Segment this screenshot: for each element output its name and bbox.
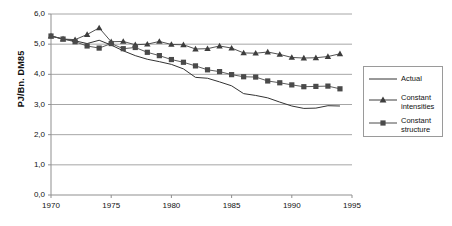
legend-label: Constant intensities bbox=[401, 94, 434, 111]
data-point-marker bbox=[121, 46, 126, 51]
data-point-marker bbox=[48, 33, 53, 38]
data-point-marker bbox=[313, 84, 318, 89]
data-point-marker bbox=[325, 83, 330, 88]
x-tick-label: 1980 bbox=[156, 201, 186, 210]
data-point-marker bbox=[193, 63, 198, 68]
data-point-marker bbox=[157, 53, 162, 58]
x-tick-label: 1995 bbox=[337, 201, 367, 210]
data-point-marker bbox=[145, 50, 150, 55]
data-point-marker bbox=[216, 43, 222, 49]
y-tick-label: 2,0 bbox=[23, 130, 45, 139]
y-tick-label: 0,0 bbox=[23, 190, 45, 199]
data-point-marker bbox=[109, 41, 114, 46]
data-point-marker bbox=[205, 67, 210, 72]
data-point-marker bbox=[156, 38, 162, 44]
legend-item-2[interactable]: Constant structure bbox=[364, 117, 444, 139]
data-point-marker bbox=[84, 31, 90, 37]
series-line-1 bbox=[51, 28, 340, 58]
data-point-marker bbox=[120, 38, 126, 44]
y-tick-label: 1,0 bbox=[23, 160, 45, 169]
legend-label: Actual bbox=[401, 75, 422, 84]
x-tick-label: 1970 bbox=[36, 201, 66, 210]
chart-figure: PJ/Bn. DM85 0,01,02,03,04,05,06,0 197019… bbox=[0, 0, 452, 226]
data-point-marker bbox=[289, 82, 294, 87]
data-point-marker bbox=[169, 57, 174, 62]
data-point-marker bbox=[181, 60, 186, 65]
x-tick-label: 1990 bbox=[277, 201, 307, 210]
data-point-marker bbox=[240, 50, 246, 56]
data-point-marker bbox=[72, 39, 77, 44]
legend-item-0[interactable]: Actual bbox=[364, 73, 444, 95]
legend-label: Constant structure bbox=[401, 117, 431, 134]
data-point-marker bbox=[301, 84, 306, 89]
y-tick-label: 6,0 bbox=[23, 9, 45, 18]
x-tick-label: 1975 bbox=[96, 201, 126, 210]
data-point-marker bbox=[337, 51, 343, 57]
chart-legend: ActualConstant intensitiesConstant struc… bbox=[363, 66, 443, 137]
data-point-marker bbox=[229, 72, 234, 77]
y-tick-label: 5,0 bbox=[23, 39, 45, 48]
data-point-marker bbox=[85, 43, 90, 48]
legend-swatch-triangle bbox=[368, 94, 398, 106]
data-point-marker bbox=[241, 74, 246, 79]
data-point-marker bbox=[265, 78, 270, 83]
y-tick-label: 4,0 bbox=[23, 69, 45, 78]
y-tick-label: 3,0 bbox=[23, 100, 45, 109]
legend-swatch-square bbox=[368, 117, 398, 129]
data-point-marker bbox=[60, 36, 65, 41]
x-tick-label: 1985 bbox=[217, 201, 247, 210]
data-point-marker bbox=[217, 69, 222, 74]
data-point-marker bbox=[265, 49, 271, 55]
legend-swatch-none bbox=[368, 73, 398, 85]
data-point-marker bbox=[133, 45, 138, 50]
data-point-marker bbox=[97, 45, 102, 50]
data-point-marker bbox=[337, 86, 342, 91]
legend-item-1[interactable]: Constant intensities bbox=[364, 94, 444, 116]
data-point-marker bbox=[277, 80, 282, 85]
data-point-marker bbox=[96, 25, 102, 31]
data-point-marker bbox=[253, 74, 258, 79]
